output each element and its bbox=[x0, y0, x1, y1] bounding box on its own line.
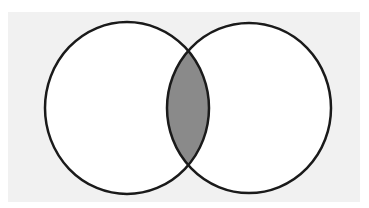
venn-diagram bbox=[0, 0, 369, 208]
